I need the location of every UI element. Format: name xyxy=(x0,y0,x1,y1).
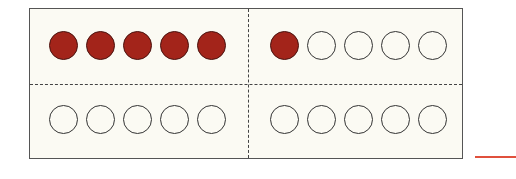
double-ten-frame xyxy=(29,8,463,159)
empty-counter-icon xyxy=(49,105,78,134)
filled-counter-icon xyxy=(123,31,152,60)
filled-counter-icon xyxy=(49,31,78,60)
answer-blank-line[interactable] xyxy=(475,156,516,158)
empty-counter-icon xyxy=(123,105,152,134)
filled-counter-icon xyxy=(86,31,115,60)
filled-counter-icon xyxy=(270,31,299,60)
empty-counter-icon xyxy=(307,105,336,134)
empty-counter-icon xyxy=(86,105,115,134)
empty-counter-icon xyxy=(160,105,189,134)
quadrant-bottom-right xyxy=(270,105,447,134)
empty-counter-icon xyxy=(381,31,410,60)
filled-counter-icon xyxy=(160,31,189,60)
empty-counter-icon xyxy=(344,31,373,60)
empty-counter-icon xyxy=(381,105,410,134)
filled-counter-icon xyxy=(197,31,226,60)
empty-counter-icon xyxy=(307,31,336,60)
quadrant-bottom-left xyxy=(49,105,226,134)
empty-counter-icon xyxy=(270,105,299,134)
empty-counter-icon xyxy=(344,105,373,134)
quadrant-top-right xyxy=(270,31,447,60)
empty-counter-icon xyxy=(418,105,447,134)
empty-counter-icon xyxy=(418,31,447,60)
horizontal-divider xyxy=(30,84,462,85)
quadrant-top-left xyxy=(49,31,226,60)
empty-counter-icon xyxy=(197,105,226,134)
